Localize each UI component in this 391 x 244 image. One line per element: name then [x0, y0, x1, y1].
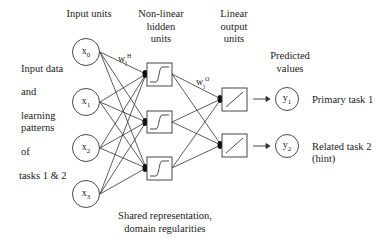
input-label-3: x3: [76, 187, 96, 204]
related-task-label: Related task 2: [312, 141, 371, 154]
arrow-right-icon: [266, 144, 270, 149]
hidden-unit-1: [147, 63, 172, 86]
output-units: [222, 88, 247, 157]
network-graphic: [0, 0, 391, 244]
left-text-0: Input data: [21, 63, 63, 76]
output-units-header: Linear output units: [214, 8, 254, 46]
predicted-values-header: Predicted values: [265, 50, 315, 75]
hint-label: (hint): [312, 153, 335, 166]
left-text-4: of: [21, 146, 30, 159]
input-to-hidden-connections: [100, 52, 146, 194]
hidden-units-header: Non-linear hidden units: [136, 8, 186, 46]
input-units-header: Input units: [65, 8, 113, 21]
hidden-unit-3: [147, 157, 172, 180]
arrow-right-icon: [266, 97, 270, 102]
left-text-3: patterns: [21, 122, 54, 135]
output-label-2: y2: [277, 139, 297, 156]
input-label-1: x1: [76, 95, 96, 112]
output-weight-label: wjO: [196, 73, 209, 93]
hidden-units: [147, 63, 172, 180]
output-arrows: [253, 97, 270, 149]
input-nodes: [73, 39, 100, 208]
shared-representation-caption: Shared representation, domain regulariti…: [110, 210, 220, 235]
input-label-2: x2: [76, 141, 96, 158]
input-label-0: x0: [76, 45, 96, 62]
multitask-network-diagram: Input units Non-linear hidden units Line…: [0, 0, 391, 244]
left-text-1: and: [21, 86, 36, 99]
hidden-unit-2: [147, 111, 172, 133]
hidden-weight-label: wjH: [118, 50, 131, 70]
left-text-5: tasks 1 & 2: [19, 170, 67, 183]
output-label-1: y1: [277, 92, 297, 109]
primary-task-label: Primary task 1: [312, 94, 373, 107]
left-text-2: learning: [21, 110, 55, 123]
